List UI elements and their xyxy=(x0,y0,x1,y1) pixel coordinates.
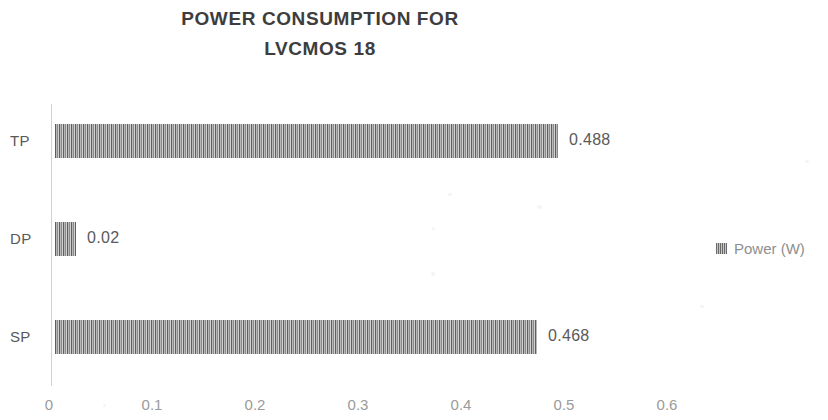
scan-speckle xyxy=(103,404,106,407)
scan-speckle xyxy=(700,305,704,308)
scan-speckle xyxy=(805,160,809,163)
x-tick-1: 0.1 xyxy=(142,396,163,413)
value-label-sp: 0.468 xyxy=(548,327,590,345)
legend-swatch-icon xyxy=(716,243,727,254)
scan-speckle xyxy=(432,227,435,230)
scan-speckle xyxy=(448,193,452,196)
x-tick-6: 0.6 xyxy=(657,396,678,413)
x-tick-4: 0.4 xyxy=(451,396,472,413)
legend-label-power: Power (W) xyxy=(734,240,805,257)
value-label-dp: 0.02 xyxy=(87,229,119,247)
category-label-tp: TP xyxy=(10,132,44,149)
scan-speckle xyxy=(431,272,435,276)
y-axis-line xyxy=(51,104,52,386)
category-label-dp: DP xyxy=(10,230,44,247)
bar-dp[interactable] xyxy=(55,222,76,256)
value-label-tp: 0.488 xyxy=(569,131,611,149)
x-tick-0: 0 xyxy=(45,396,53,413)
chart-plot-area: TP DP SP 0.488 0.02 0.468 0 0.1 0.2 0.3 … xyxy=(0,0,828,420)
x-tick-2: 0.2 xyxy=(245,396,266,413)
x-tick-3: 0.3 xyxy=(348,396,369,413)
category-label-sp: SP xyxy=(10,328,44,345)
scan-speckle xyxy=(537,205,542,209)
bar-tp[interactable] xyxy=(55,124,558,158)
x-tick-5: 0.5 xyxy=(554,396,575,413)
chart-legend[interactable]: Power (W) xyxy=(716,240,805,257)
bar-sp[interactable] xyxy=(55,320,537,354)
